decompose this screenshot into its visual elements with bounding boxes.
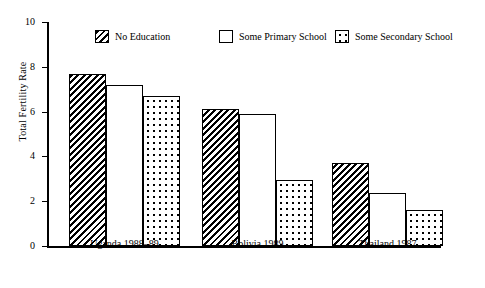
y-tick: 2 (42, 201, 47, 202)
y-tick: 6 (42, 112, 47, 113)
plot-area: 0246810 (47, 22, 441, 247)
bar (239, 114, 276, 246)
y-tick-label: 8 (30, 62, 35, 72)
bar (332, 163, 369, 246)
y-axis-label: Total Fertility Rate (17, 42, 28, 162)
bar (106, 85, 143, 246)
fertility-bar-chart: Total Fertility Rate No Education Some P… (0, 0, 485, 288)
bar (202, 109, 239, 246)
bar (143, 96, 180, 246)
x-category-label: Bolivia 1989 (232, 238, 284, 249)
y-tick-label: 10 (25, 17, 35, 27)
bar (69, 74, 106, 246)
bar (276, 180, 313, 246)
y-tick-label: 6 (30, 107, 35, 117)
y-tick: 10 (42, 22, 47, 23)
y-tick: 0 (42, 246, 47, 247)
y-tick-label: 0 (30, 241, 35, 251)
y-tick: 8 (42, 67, 47, 68)
y-axis-line (47, 22, 49, 248)
y-tick: 4 (42, 156, 47, 157)
x-category-label: Uganda 1988–89 (90, 238, 159, 249)
y-tick-label: 2 (30, 196, 35, 206)
y-tick-label: 4 (30, 151, 35, 161)
x-category-label: Thailand 1987 (358, 238, 416, 249)
